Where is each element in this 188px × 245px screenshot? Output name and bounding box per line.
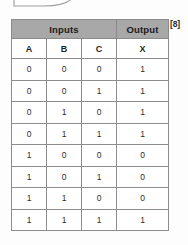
group-header-output: Output bbox=[117, 20, 169, 39]
cell-x: 0 bbox=[117, 188, 169, 210]
column-header-a: A bbox=[12, 39, 47, 59]
cell-b: 0 bbox=[47, 145, 82, 167]
cell-x: 1 bbox=[117, 102, 169, 124]
cell-b: 1 bbox=[47, 123, 82, 145]
cell-x: 1 bbox=[117, 59, 169, 81]
truth-table-container: Inputs Output A B C X 0 0 0 1 0 0 1 1 bbox=[11, 19, 168, 231]
table-column-header-row: A B C X bbox=[12, 39, 169, 59]
group-header-inputs: Inputs bbox=[12, 20, 117, 39]
column-header-b: B bbox=[47, 39, 82, 59]
table-row: 1 1 1 1 bbox=[12, 209, 169, 231]
cell-c: 0 bbox=[82, 188, 117, 210]
cell-x: 0 bbox=[117, 166, 169, 188]
table-row: 0 1 0 1 bbox=[12, 102, 169, 124]
logic-gate-outline-fragment bbox=[0, 0, 188, 18]
cell-a: 0 bbox=[12, 102, 47, 124]
cell-a: 1 bbox=[12, 188, 47, 210]
cell-x: 0 bbox=[117, 145, 169, 167]
cell-b: 0 bbox=[47, 59, 82, 81]
cell-x: 1 bbox=[117, 80, 169, 102]
table-row: 0 1 1 1 bbox=[12, 123, 169, 145]
column-header-x: X bbox=[117, 39, 169, 59]
table-group-header-row: Inputs Output bbox=[12, 20, 169, 39]
cell-x: 1 bbox=[117, 123, 169, 145]
cell-b: 0 bbox=[47, 166, 82, 188]
cell-a: 0 bbox=[12, 123, 47, 145]
cell-b: 0 bbox=[47, 80, 82, 102]
cell-b: 1 bbox=[47, 209, 82, 231]
table-row: 0 0 0 1 bbox=[12, 59, 169, 81]
cell-c: 0 bbox=[82, 59, 117, 81]
table-row: 1 1 0 0 bbox=[12, 188, 169, 210]
cell-b: 1 bbox=[47, 102, 82, 124]
cell-c: 1 bbox=[82, 123, 117, 145]
cell-x: 1 bbox=[117, 209, 169, 231]
cell-b: 1 bbox=[47, 188, 82, 210]
cell-a: 0 bbox=[12, 59, 47, 81]
cell-c: 0 bbox=[82, 102, 117, 124]
cell-a: 1 bbox=[12, 166, 47, 188]
cell-c: 0 bbox=[82, 145, 117, 167]
marks-annotation: [8] bbox=[170, 20, 180, 29]
cell-c: 1 bbox=[82, 166, 117, 188]
truth-table: Inputs Output A B C X 0 0 0 1 0 0 1 1 bbox=[11, 19, 169, 231]
table-row: 0 0 1 1 bbox=[12, 80, 169, 102]
cell-c: 1 bbox=[82, 80, 117, 102]
table-row: 1 0 0 0 bbox=[12, 145, 169, 167]
table-row: 1 0 1 0 bbox=[12, 166, 169, 188]
cell-a: 0 bbox=[12, 80, 47, 102]
cell-c: 1 bbox=[82, 209, 117, 231]
column-header-c: C bbox=[82, 39, 117, 59]
cell-a: 1 bbox=[12, 209, 47, 231]
cell-a: 1 bbox=[12, 145, 47, 167]
